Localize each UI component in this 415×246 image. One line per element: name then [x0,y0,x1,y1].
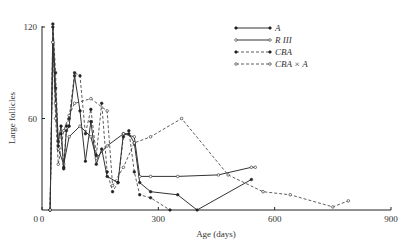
legend-label: R III [274,35,293,45]
legend-label: CBA [275,47,293,57]
x-tick-label: 0 [40,214,45,224]
axes [42,26,391,210]
line-chart: 0300600900060120 AR IIICBACBA × A Age (d… [0,0,415,246]
x-tick-label: 600 [268,214,282,224]
data-series [49,23,350,212]
x-tick-label: 900 [384,214,398,224]
legend-label: A [274,23,281,33]
series-line [50,24,170,210]
y-axis-label: Large follicles [7,91,17,144]
x-axis-label: Age (days) [196,229,236,239]
y-tick-label: 60 [28,114,38,124]
y-tick-label: 120 [24,22,38,32]
origin-label: 0 [34,214,39,224]
axis-ticks: 0300600900060120 [24,22,399,224]
legend: AR IIICBACBA × A [235,23,309,69]
legend-label: CBA × A [275,59,308,69]
series-line [50,27,251,210]
x-tick-label: 300 [152,214,166,224]
